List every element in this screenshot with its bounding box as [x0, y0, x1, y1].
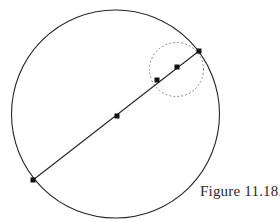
chord-endpoint-upper-right — [197, 49, 202, 54]
figure-container: Figure 11.18. — [0, 0, 280, 222]
chord-point-inner — [155, 78, 160, 83]
chord-endpoint-lower-left — [31, 178, 36, 183]
chord-point-outer — [175, 65, 180, 70]
chord-midpoint — [115, 114, 120, 119]
figure-caption: Figure 11.18. — [200, 183, 280, 200]
